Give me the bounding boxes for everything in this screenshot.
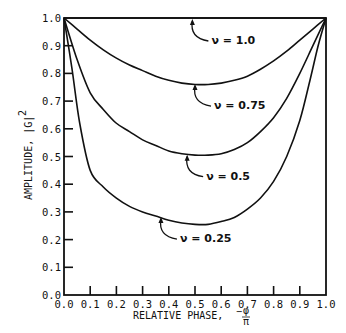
y-tick-label: 0.6 — [42, 123, 61, 135]
x-tick-label: 0.5 — [186, 298, 205, 310]
annotation-arrowhead — [190, 19, 195, 25]
y-tick-label: 0.5 — [42, 151, 61, 163]
annotation-label: ν = 1.0 — [211, 34, 255, 47]
x-axis-title-text: RELATIVE PHASE, — [133, 310, 223, 321]
ticks-layer: 0.00.10.20.30.40.50.60.70.80.91.00.00.10… — [42, 12, 335, 310]
curves-layer — [64, 18, 326, 225]
y-axis-title-text: AMPLITUDE, |G| — [23, 116, 35, 200]
y-tick-label: 1.0 — [42, 12, 61, 24]
annotation-label: ν = 0.5 — [206, 170, 250, 183]
y-tick-label: 0.2 — [42, 234, 61, 246]
annotations-layer: ν = 1.0ν = 0.75ν = 0.5ν = 0.25 — [158, 19, 265, 245]
x-tick-label: 0.3 — [133, 298, 152, 310]
y-tick-label: 0.0 — [42, 289, 61, 301]
series-curve-1 — [64, 18, 326, 85]
x-axis-title-sign: − — [236, 306, 242, 317]
y-axis-title: AMPLITUDE, |G| 2 — [17, 110, 35, 200]
y-tick-label: 0.8 — [42, 67, 61, 79]
annotation-arrowhead — [185, 155, 190, 161]
x-tick-label: 0.8 — [264, 298, 283, 310]
x-tick-label: 0.4 — [159, 298, 178, 310]
x-tick-label: 0.6 — [212, 298, 231, 310]
y-tick-label: 0.7 — [42, 95, 61, 107]
y-tick-label: 0.3 — [42, 206, 61, 218]
annotation-label: ν = 0.75 — [214, 99, 266, 112]
y-axis-title-exponent: 2 — [17, 110, 28, 116]
x-tick-label: 0.9 — [290, 298, 309, 310]
x-tick-label: 1.0 — [317, 298, 336, 310]
x-axis-title-numerator: φ — [243, 305, 249, 316]
annotation-label: ν = 0.25 — [180, 232, 232, 245]
x-tick-label: 0.1 — [81, 298, 100, 310]
amplitude-chart: 0.00.10.20.30.40.50.60.70.80.91.00.00.10… — [0, 0, 346, 333]
x-tick-label: 0.2 — [107, 298, 126, 310]
y-tick-label: 0.1 — [42, 261, 61, 273]
y-tick-label: 0.9 — [42, 40, 61, 52]
y-tick-label: 0.4 — [42, 178, 61, 190]
x-axis-title-denominator: π — [243, 316, 249, 327]
